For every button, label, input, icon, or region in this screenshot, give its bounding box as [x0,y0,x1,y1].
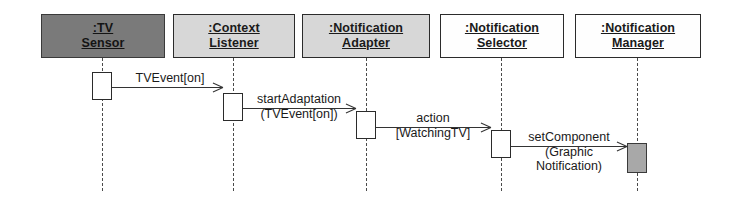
lifeline-name-line1: :Notification [329,21,403,36]
message-label-line3: Notification) [506,159,632,174]
lifeline-stem-context-listener [233,58,234,191]
lifeline-name-line1: :TV [93,21,113,36]
lifeline-name-line2: Selector [477,36,527,51]
lifeline-head-tv-sensor[interactable]: :TV Sensor [41,14,165,58]
message-label-line1: TVEvent[on] [118,71,222,86]
lifeline-name-line2: Manager [612,36,664,51]
message-label-line1: setComponent [506,130,632,145]
message-line-tvevent[interactable] [112,87,223,88]
lifeline-name-line1: :Notification [465,21,539,36]
message-label-line1: startAdaptation [231,92,367,107]
lifeline-head-notification-adapter[interactable]: :Notification Adapter [302,14,430,58]
sequence-diagram-canvas: :TV Sensor :Context Listener :Notificati… [0,0,735,210]
lifeline-name-line2: Sensor [82,36,125,51]
lifeline-stem-notification-selector [501,58,502,191]
lifeline-head-context-listener[interactable]: :Context Listener [173,14,295,58]
activation-bar-tv-sensor [92,72,112,100]
lifeline-head-notification-manager[interactable]: :Notification Manager [575,14,701,58]
lifeline-name-line2: Adapter [342,36,390,51]
message-label-tvevent: TVEvent[on] [118,71,222,86]
message-label-line2: [WatchingTV] [372,126,494,141]
message-label-startadaptation: startAdaptation (TVEvent[on]) [231,92,367,121]
lifeline-name-line2: Listener [209,36,258,51]
message-label-line2: (Graphic [506,145,632,160]
lifeline-head-notification-selector[interactable]: :Notification Selector [440,14,564,58]
message-label-line2: (TVEvent[on]) [231,107,367,122]
message-label-line1: action [372,111,494,126]
lifeline-name-line1: :Notification [601,21,675,36]
lifeline-name-line1: :Context [208,21,260,36]
message-label-setcomponent: setComponent (Graphic Notification) [506,130,632,174]
message-label-action: action [WatchingTV] [372,111,494,140]
